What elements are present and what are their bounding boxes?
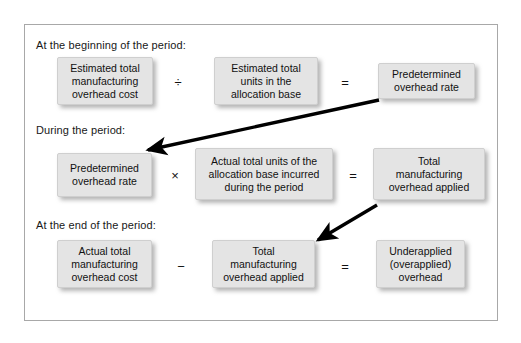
section-label-end: At the end of the period: <box>36 219 156 231</box>
box-actual-total-manufacturing-overhead-cost: Actual total manufacturing overhead cost <box>57 240 152 288</box>
section-label-during: During the period: <box>36 124 125 136</box>
box-label: Actual total units of the allocation bas… <box>199 155 329 194</box>
subtraction-operator: − <box>173 260 189 273</box>
box-label: Estimated total manufacturing overhead c… <box>61 62 149 101</box>
box-label: Estimated total units in the allocation … <box>218 62 314 101</box>
box-label: Total manufacturing overhead applied <box>377 155 481 194</box>
box-predetermined-overhead-rate-result: Predetermined overhead rate <box>378 63 475 99</box>
box-predetermined-overhead-rate-input: Predetermined overhead rate <box>57 153 152 197</box>
equals-operator-row-end: = <box>337 260 353 273</box>
box-total-manufacturing-overhead-applied-result: Total manufacturing overhead applied <box>373 148 485 200</box>
section-label-beginning: At the beginning of the period: <box>36 39 186 51</box>
box-actual-total-units-of-allocation-base-incurred: Actual total units of the allocation bas… <box>195 148 333 200</box>
box-label: Predetermined overhead rate <box>61 162 148 188</box>
box-label: Predetermined overhead rate <box>382 68 471 94</box>
overhead-flow-diagram: At the beginning of the period: During t… <box>0 0 521 343</box>
box-estimated-total-manufacturing-overhead-cost: Estimated total manufacturing overhead c… <box>57 57 153 105</box>
equals-operator-row-beginning: = <box>337 76 353 89</box>
box-total-manufacturing-overhead-applied-input: Total manufacturing overhead applied <box>212 240 315 288</box>
box-label: Actual total manufacturing overhead cost <box>61 245 148 284</box>
box-label: Total manufacturing overhead applied <box>216 245 311 284</box>
equals-operator-row-during: = <box>345 169 361 182</box>
box-estimated-total-units-in-the-allocation-base: Estimated total units in the allocation … <box>214 57 318 105</box>
box-label: Underapplied (overapplied) overhead <box>380 245 461 284</box>
multiplication-operator: × <box>167 169 183 182</box>
division-operator: ÷ <box>170 76 186 89</box>
box-underapplied-overapplied-overhead: Underapplied (overapplied) overhead <box>376 240 465 288</box>
